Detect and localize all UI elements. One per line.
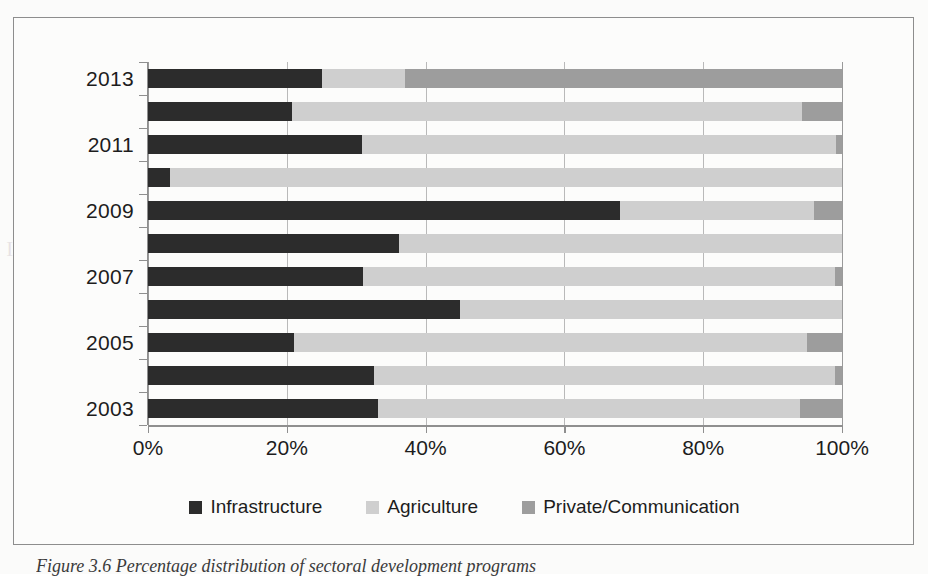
bar-segment-2008-agriculture[interactable] xyxy=(399,234,842,253)
x-axis-tick-0 xyxy=(148,425,149,433)
chart-legend: InfrastructureAgriculturePrivate/Communi… xyxy=(14,496,915,518)
x-axis-tick-100 xyxy=(842,425,843,433)
bar-segment-2007-agriculture[interactable] xyxy=(363,267,835,286)
legend-label-agriculture: Agriculture xyxy=(387,496,478,518)
bar-segment-2010-agriculture[interactable] xyxy=(170,168,842,187)
bar-segment-2005-agriculture[interactable] xyxy=(294,333,808,352)
legend-item-infrastructure[interactable]: Infrastructure xyxy=(189,496,322,518)
bar-segment-2003-infrastructure[interactable] xyxy=(148,399,378,418)
bar-row-2007[interactable] xyxy=(148,267,842,286)
bar-row-2009[interactable] xyxy=(148,201,842,220)
x-axis-tick-60 xyxy=(564,425,565,433)
y-axis-label-2013: 2013 xyxy=(14,67,134,91)
y-axis-label-2007: 2007 xyxy=(14,265,134,289)
legend-item-agriculture[interactable]: Agriculture xyxy=(366,496,478,518)
gridline-100 xyxy=(842,62,843,425)
x-axis-label-0: 0% xyxy=(133,436,163,460)
legend-label-infrastructure: Infrastructure xyxy=(210,496,322,518)
bar-segment-2004-private-communication[interactable] xyxy=(835,366,842,385)
bar-segment-2005-private-communication[interactable] xyxy=(807,333,842,352)
x-axis-label-20: 20% xyxy=(266,436,308,460)
y-axis-label-2003: 2003 xyxy=(14,397,134,421)
bar-segment-2011-agriculture[interactable] xyxy=(362,135,837,154)
y-axis-tick-2008 xyxy=(139,227,147,228)
x-axis-tick-40 xyxy=(426,425,427,433)
bar-segment-2011-private-communication[interactable] xyxy=(836,135,842,154)
bar-segment-2011-infrastructure[interactable] xyxy=(148,135,362,154)
y-axis-tick-2011 xyxy=(139,128,147,129)
bar-row-2008[interactable] xyxy=(148,234,842,253)
legend-item-private-communication[interactable]: Private/Communication xyxy=(522,496,739,518)
y-axis-label-2005: 2005 xyxy=(14,331,134,355)
legend-swatch-private-communication xyxy=(522,501,535,514)
x-axis-labels: 0%20%40%60%80%100% xyxy=(148,436,842,466)
bar-segment-2012-infrastructure[interactable] xyxy=(148,102,292,121)
y-axis-tick-2007 xyxy=(139,260,147,261)
bar-segment-2009-infrastructure[interactable] xyxy=(148,201,620,220)
y-axis-tick-2006 xyxy=(139,293,147,294)
bar-segment-2006-agriculture[interactable] xyxy=(460,300,842,319)
bar-row-2010[interactable] xyxy=(148,168,842,187)
bar-segment-2004-agriculture[interactable] xyxy=(374,366,836,385)
y-axis-label-2009: 2009 xyxy=(14,199,134,223)
bar-segment-2012-private-communication[interactable] xyxy=(802,102,842,121)
legend-swatch-infrastructure xyxy=(189,501,202,514)
x-axis-label-80: 80% xyxy=(682,436,724,460)
y-axis-tick-2012 xyxy=(139,95,147,96)
bar-segment-2009-agriculture[interactable] xyxy=(620,201,814,220)
bar-segment-2008-infrastructure[interactable] xyxy=(148,234,399,253)
x-axis-label-40: 40% xyxy=(405,436,447,460)
y-axis-tick-2005 xyxy=(139,326,147,327)
y-axis-label-2011: 2011 xyxy=(14,133,134,157)
legend-label-private-communication: Private/Communication xyxy=(543,496,739,518)
bar-row-2013[interactable] xyxy=(148,69,842,88)
bar-segment-2007-private-communication[interactable] xyxy=(835,267,842,286)
bar-row-2004[interactable] xyxy=(148,366,842,385)
bar-row-2006[interactable] xyxy=(148,300,842,319)
bar-segment-2013-agriculture[interactable] xyxy=(322,69,405,88)
bar-row-2011[interactable] xyxy=(148,135,842,154)
bar-segment-2004-infrastructure[interactable] xyxy=(148,366,374,385)
y-axis-tick-2003 xyxy=(139,392,147,393)
legend-swatch-agriculture xyxy=(366,501,379,514)
y-axis-labels: 201320112009200720052003 xyxy=(14,62,142,425)
bar-segment-2013-infrastructure[interactable] xyxy=(148,69,322,88)
bar-segment-2005-infrastructure[interactable] xyxy=(148,333,294,352)
y-axis-tick-2013 xyxy=(139,62,147,63)
bar-segment-2009-private-communication[interactable] xyxy=(814,201,842,220)
x-axis-label-100: 100% xyxy=(815,436,869,460)
x-axis-tick-20 xyxy=(287,425,288,433)
bar-segment-2003-agriculture[interactable] xyxy=(378,399,800,418)
x-axis-label-60: 60% xyxy=(543,436,585,460)
bar-segment-2012-agriculture[interactable] xyxy=(292,102,801,121)
x-axis-line xyxy=(148,425,842,427)
y-axis-tick-2004 xyxy=(139,359,147,360)
y-axis-tick-2010 xyxy=(139,161,147,162)
figure-caption: Figure 3.6 Percentage distribution of se… xyxy=(36,556,916,577)
bar-segment-2006-infrastructure[interactable] xyxy=(148,300,460,319)
plot-area xyxy=(148,62,842,425)
y-axis-tick-end xyxy=(139,425,147,426)
bar-row-2005[interactable] xyxy=(148,333,842,352)
x-axis-tick-80 xyxy=(703,425,704,433)
bar-segment-2010-infrastructure[interactable] xyxy=(148,168,170,187)
y-axis-tick-2009 xyxy=(139,194,147,195)
bar-segment-2007-infrastructure[interactable] xyxy=(148,267,363,286)
bar-row-2003[interactable] xyxy=(148,399,842,418)
figure-frame: 201320112009200720052003 0%20%40%60%80%1… xyxy=(13,17,914,545)
bar-segment-2013-private-communication[interactable] xyxy=(405,69,842,88)
bar-segment-2003-private-communication[interactable] xyxy=(800,399,842,418)
bar-row-2012[interactable] xyxy=(148,102,842,121)
